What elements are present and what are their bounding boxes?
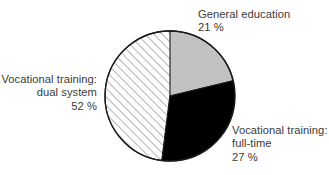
label-vocational-full-time-percent: 27 % — [232, 151, 328, 164]
label-vocational-full-time-line2: full-time — [232, 137, 328, 150]
label-general-education-percent: 21 % — [198, 21, 290, 34]
label-vocational-full-time: Vocational training: full-time 27 % — [232, 124, 328, 164]
label-vocational-dual-system: Vocational training: dual system 52 % — [1, 73, 97, 113]
label-vocational-dual-system-line1: Vocational training: — [1, 73, 97, 85]
label-vocational-dual-system-percent: 52 % — [1, 100, 97, 113]
label-vocational-full-time-line1: Vocational training: — [232, 124, 328, 136]
pie-chart: General education 21 % Vocational traini… — [0, 0, 329, 175]
label-general-education-line1: General education — [198, 8, 290, 20]
label-general-education: General education 21 % — [198, 8, 290, 35]
label-vocational-dual-system-line2: dual system — [1, 86, 97, 99]
